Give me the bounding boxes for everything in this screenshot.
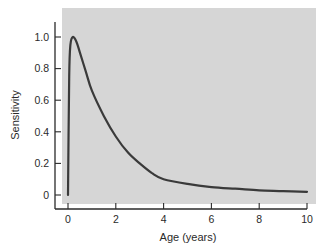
y-tick-label: 0.2 — [34, 157, 49, 169]
x-tick-label: 2 — [113, 213, 119, 225]
y-axis: 00.20.40.60.81.0 — [34, 22, 61, 209]
y-axis-title: Sensitivity — [9, 90, 21, 140]
x-axis-title: Age (years) — [160, 231, 217, 243]
x-tick-label: 6 — [208, 213, 214, 225]
x-tick-label: 0 — [65, 213, 71, 225]
x-tick-label: 4 — [161, 213, 167, 225]
x-tick-label: 8 — [256, 213, 262, 225]
y-tick-label: 0.6 — [34, 94, 49, 106]
y-tick-label: 0.4 — [34, 126, 49, 138]
x-axis: 0246810 — [55, 203, 313, 225]
sensitivity-chart: 00.20.40.60.81.0 0246810 Age (years) Sen… — [0, 0, 332, 251]
plot-background — [62, 8, 316, 204]
y-tick-label: 1.0 — [34, 31, 49, 43]
x-tick-label: 10 — [301, 213, 313, 225]
y-tick-label: 0.8 — [34, 62, 49, 74]
y-tick-label: 0 — [43, 189, 49, 201]
